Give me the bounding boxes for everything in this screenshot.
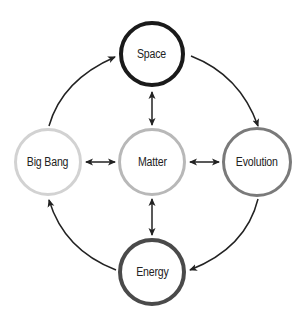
node-label-energy: Energy bbox=[136, 265, 168, 279]
node-label-evolution: Evolution bbox=[236, 155, 278, 169]
arrow-space-to-evolution bbox=[191, 56, 258, 126]
node-energy: Energy bbox=[118, 238, 186, 306]
arrow-evolution-to-energy bbox=[190, 199, 258, 270]
arrow-energy-to-bigbang bbox=[49, 200, 116, 270]
node-evolution: Evolution bbox=[222, 127, 292, 197]
node-label-space: Space bbox=[137, 47, 166, 61]
arrow-bigbang-to-space bbox=[49, 57, 115, 126]
node-label-big-bang: Big Bang bbox=[27, 155, 68, 169]
node-big-bang: Big Bang bbox=[14, 128, 82, 196]
node-matter: Matter bbox=[118, 128, 186, 196]
node-space: Space bbox=[119, 21, 185, 87]
node-label-matter: Matter bbox=[138, 155, 167, 169]
